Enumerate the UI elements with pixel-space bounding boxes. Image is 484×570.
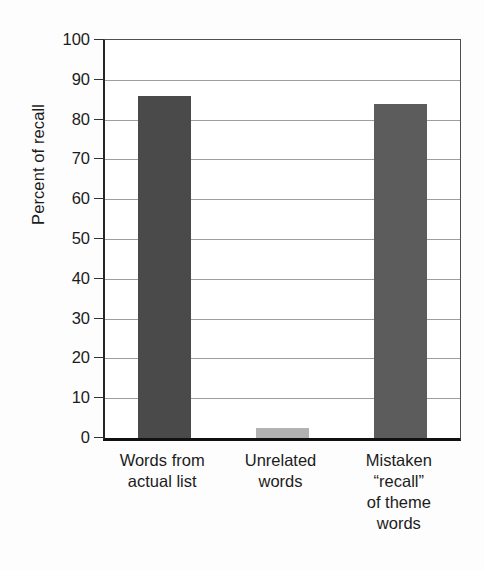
x-axis-category-label-line: “recall” [340,471,458,492]
y-axis-tick-mark [94,437,103,438]
y-axis-tick-mark [94,278,103,279]
y-axis-tick-label: 80 [46,111,90,128]
y-axis-tick-label: 50 [46,230,90,247]
y-axis-title: Percent of recall [29,65,48,265]
y-axis-tick-label: 90 [46,71,90,88]
y-axis-tick-mark [94,238,103,239]
y-axis-tick-mark [94,79,103,80]
bar-chart-figure: Percent of recall 0102030405060708090100… [0,0,484,570]
x-axis-category-label-line: Mistaken [340,450,458,471]
y-axis-tick-label: 0 [46,429,90,446]
x-axis-category-label-line: of theme [340,492,458,513]
x-axis-category-label: Words fromactual list [103,450,221,492]
x-axis-category-label-line: words [340,513,458,534]
y-axis-tick-label: 30 [46,310,90,327]
bar [256,428,309,438]
x-axis-category-label-line: Words from [103,450,221,471]
y-axis-tick-mark [94,357,103,358]
y-axis-tick-label: 40 [46,270,90,287]
plot-area [103,39,461,441]
x-axis-category-label-line: Unrelated [221,450,339,471]
x-axis-category-label-line: actual list [103,471,221,492]
y-axis-tick-mark [94,198,103,199]
bar [138,96,191,438]
y-axis-tick-label: 100 [46,31,90,48]
bar [374,104,427,438]
y-axis-tick-mark [94,119,103,120]
y-axis-tick-mark [94,39,103,40]
y-axis-tick-mark [94,158,103,159]
y-axis-tick-label: 20 [46,349,90,366]
y-axis-tick-label: 10 [46,389,90,406]
y-axis-tick-mark [94,397,103,398]
x-axis-category-label: Unrelatedwords [221,450,339,492]
x-axis-category-label-line: words [221,471,339,492]
y-axis-tick-mark [94,318,103,319]
gridline [105,80,460,81]
y-axis-tick-label: 60 [46,190,90,207]
x-axis-category-label: Mistaken“recall”of themewords [340,450,458,534]
y-axis-tick-label: 70 [46,150,90,167]
